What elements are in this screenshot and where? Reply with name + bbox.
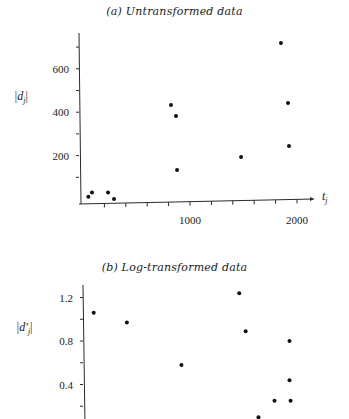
data-point — [289, 399, 293, 403]
data-point — [169, 103, 173, 107]
data-point — [179, 363, 183, 367]
scatter-plot-b: 0.40.81.2|d'j| — [0, 225, 349, 419]
data-point — [287, 144, 291, 148]
data-point — [175, 168, 179, 172]
data-point — [90, 190, 94, 194]
y-tick-label: 1.2 — [59, 292, 73, 304]
y-axis-label: |dj| — [14, 89, 28, 105]
data-point — [86, 195, 90, 199]
data-point — [256, 415, 260, 419]
data-point — [286, 101, 290, 105]
data-point — [288, 378, 292, 382]
data-point — [239, 155, 243, 159]
x-axis-arrow-icon — [310, 197, 314, 201]
y-tick-label: 200 — [53, 150, 70, 162]
data-point — [244, 329, 248, 333]
figure-a-untransformed: (a) Untransformed data 200400600|dj|1000… — [0, 0, 349, 225]
data-point — [112, 197, 116, 201]
y-axis — [83, 285, 85, 419]
data-point — [174, 114, 178, 118]
y-tick-label: 0.8 — [59, 335, 73, 347]
data-point — [125, 321, 129, 325]
figure-b-log-transformed: (b) Log-transformed data 0.40.81.2|d'j| — [0, 225, 349, 419]
y-tick-label: 0.4 — [59, 379, 73, 391]
y-axis — [79, 33, 81, 204]
y-tick-label: 600 — [53, 63, 70, 75]
x-axis-label: tj — [322, 189, 328, 205]
scatter-plot-a: 200400600|dj|10002000tj — [0, 0, 349, 225]
data-point — [288, 339, 292, 343]
y-tick-label: 400 — [53, 106, 70, 118]
y-axis-label: |d'j| — [16, 320, 33, 336]
data-point — [237, 291, 241, 295]
data-point — [106, 190, 110, 194]
data-point — [92, 311, 96, 315]
data-point — [273, 399, 277, 403]
data-point — [279, 41, 283, 45]
